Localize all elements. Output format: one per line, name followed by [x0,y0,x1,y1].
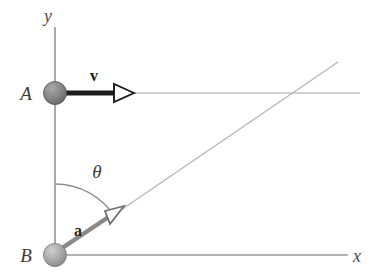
vector-v-arrowhead [114,84,134,102]
diagram-canvas: y x A B θ v a [0,0,377,275]
particle-a-label: A [18,83,32,104]
particle-b-label: B [20,245,32,266]
vector-a-label: a [74,222,82,239]
vector-v-label: v [90,67,98,84]
theta-angle-label: θ [92,161,101,182]
vector-a-arrowhead [105,206,124,224]
x-axis-label: x [352,246,361,266]
y-axis-label: y [42,6,52,26]
vector-a-shaft [62,216,110,248]
particle-b-sphere [44,244,67,267]
physics-vector-diagram: y x A B θ v a [0,0,377,275]
particle-a-sphere [44,82,67,105]
